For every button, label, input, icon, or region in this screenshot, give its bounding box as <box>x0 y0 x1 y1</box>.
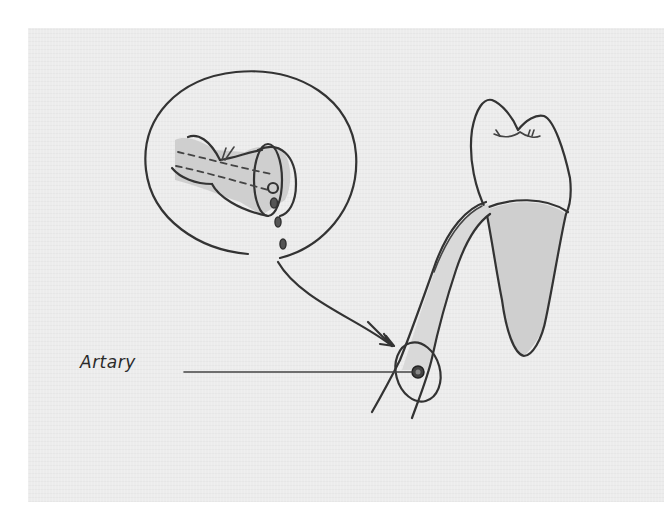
artery-label: Artary <box>80 352 136 372</box>
tooth-diagram <box>0 0 672 512</box>
pointer-arrow <box>278 262 394 346</box>
tooth <box>471 100 571 356</box>
nerve-bundle <box>372 202 490 418</box>
